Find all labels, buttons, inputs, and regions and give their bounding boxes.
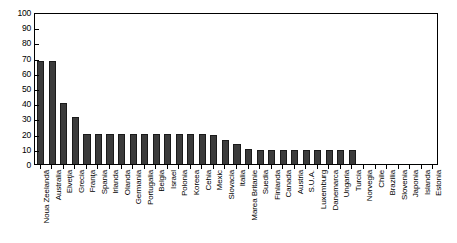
bar [233,144,240,164]
bar [118,134,125,164]
bar [326,150,333,164]
bar [130,134,137,164]
bars-layer [35,14,437,164]
bar [164,134,171,164]
bar [199,134,206,164]
x-axis-tick-mark [51,165,52,169]
x-axis-category-label: Belgia [158,170,166,192]
bar [349,150,356,164]
y-axis-tick-mark [35,105,39,106]
x-axis-category-label: Chile [378,170,386,188]
y-axis-tick-labels: 0102030405060708090100 [0,0,31,243]
x-axis-tick-mark [224,165,225,169]
bar [280,150,287,164]
x-axis-category-label: Norvegia [366,170,374,201]
bar [153,134,160,164]
bar [60,103,67,164]
bar [210,135,217,164]
x-axis-tick-mark [155,165,156,169]
x-axis-category-label: Slovenia [401,170,409,200]
x-axis-tick-mark [282,165,283,169]
bar [187,134,194,164]
x-axis-tick-mark [86,165,87,169]
y-axis-tick-mark [35,136,39,137]
x-axis-tick-mark [109,165,110,169]
y-axis-tick-label: 70 [0,55,31,64]
x-axis-tick-mark [259,165,260,169]
x-axis-tick-mark [386,165,387,169]
y-axis-tick-mark [35,90,39,91]
x-axis-tick-mark [398,165,399,169]
x-axis-tick-mark [213,165,214,169]
x-axis-category-label: Austria [297,170,305,194]
x-axis-tick-mark [317,165,318,169]
x-axis-tick-mark [121,165,122,169]
y-axis-tick-label: 100 [0,9,31,18]
y-axis-tick-label: 0 [0,161,31,170]
x-axis-category-label: Italia [239,170,247,186]
x-axis-category-label: Spania [101,170,109,194]
x-axis-tick-mark [432,165,433,169]
x-axis-category-label: Cehia [205,170,213,190]
x-axis-tick-mark [236,165,237,169]
x-axis-category-label: Marea Britanie [251,170,259,221]
x-axis-tick-mark [351,165,352,169]
bar [95,134,102,164]
bar [291,150,298,164]
y-axis-tick-mark [35,151,39,152]
bar [245,149,252,164]
x-axis-tick-mark [178,165,179,169]
x-axis-tick-mark [409,165,410,169]
x-axis-category-label: Islanda [424,170,432,195]
y-axis-tick-mark [35,29,39,30]
x-axis-tick-mark [167,165,168,169]
bar [141,134,148,164]
x-axis-category-label: S.U.A. [308,170,316,193]
x-axis-tick-mark [63,165,64,169]
y-axis-tick-label: 20 [0,131,31,140]
x-axis-category-label: Finlanda [274,170,282,200]
x-axis-category-label: Polonia [181,170,189,196]
x-axis-category-label: Canada [285,170,293,197]
y-axis-tick-label: 60 [0,70,31,79]
bar [176,134,183,164]
x-axis-tick-mark [190,165,191,169]
bar [314,150,321,164]
x-axis-tick-mark [144,165,145,169]
y-axis-tick-label: 90 [0,24,31,33]
x-axis-tick-mark [201,165,202,169]
bar [337,150,344,164]
x-axis-category-labels: Noua ZeelandăAustraliaElveţiaGreciaFranţ… [34,170,438,243]
x-axis-category-label: Luxemburg [320,170,328,209]
bar [72,117,79,164]
x-axis-category-label: Danemarca [332,170,340,210]
x-axis-tick-mark [271,165,272,169]
x-axis-tick-mark [97,165,98,169]
x-axis-category-label: Brazilia [389,170,397,195]
y-axis-tick-mark [35,60,39,61]
x-axis-tick-mark [248,165,249,169]
y-axis-tick-label: 40 [0,100,31,109]
bar [303,150,310,164]
x-axis-category-label: Olanda [124,170,132,195]
plot-area [34,13,438,165]
x-axis-category-label: Mexic [216,170,224,190]
bar-chart: 0102030405060708090100 Noua ZeelandăAust… [0,0,457,243]
x-axis-tick-mark [305,165,306,169]
x-axis-tick-mark [375,165,376,169]
x-axis-category-label: Noua Zeelandă [43,170,51,223]
y-axis-tick-label: 50 [0,85,31,94]
y-axis-tick-label: 80 [0,39,31,48]
x-axis-category-label: Estonia [435,170,443,196]
y-axis-tick-mark [35,120,39,121]
x-axis-category-label: Turcia [355,170,363,191]
x-axis-category-label: Ungaria [343,170,351,197]
x-axis-category-label: Germania [135,170,143,204]
x-axis-category-label: Grecia [78,170,86,193]
x-axis-tick-mark [421,165,422,169]
y-axis-tick-mark [35,44,39,45]
x-axis-tick-mark [294,165,295,169]
bar [222,140,229,164]
y-axis-tick-label: 30 [0,115,31,124]
x-axis-category-label: Koreea [193,170,201,195]
